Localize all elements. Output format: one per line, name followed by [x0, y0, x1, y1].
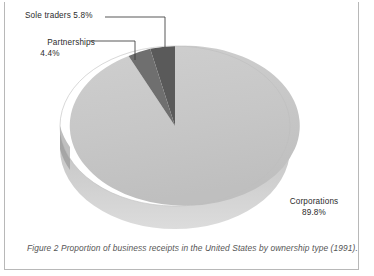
- figure-container: Sole traders 5.8% Partnerships 4.4% Corp…: [0, 0, 374, 276]
- pie-slice-corporations: [70, 46, 300, 206]
- slice-label-sole-traders: Sole traders 5.8%: [25, 10, 93, 21]
- slice-label-corporations: Corporations 89.8%: [283, 196, 345, 218]
- slice-label-corporations-name: Corporations: [290, 197, 339, 206]
- slice-label-corporations-pct: 89.8%: [283, 207, 345, 218]
- slice-label-partnerships: Partnerships 4.4%: [19, 37, 95, 59]
- slice-label-partnerships-name: Partnerships: [47, 38, 95, 47]
- slice-label-partnerships-pct: 4.4%: [19, 48, 95, 59]
- figure-caption: Figure 2 Proportion of business receipts…: [27, 243, 347, 253]
